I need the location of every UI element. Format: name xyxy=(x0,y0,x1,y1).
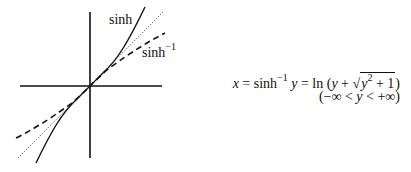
square-root: √y2 + 1 xyxy=(353,72,396,91)
asinh-label: sinh−1 xyxy=(142,43,176,60)
sinh-label: sinh xyxy=(109,13,132,27)
formula-definition: x = sinh−1 y = ln (y + √y2 + 1) xyxy=(233,72,400,91)
formula-domain: (−∞ < y < +∞) xyxy=(319,90,400,104)
hyperbolic-graph xyxy=(0,0,200,172)
